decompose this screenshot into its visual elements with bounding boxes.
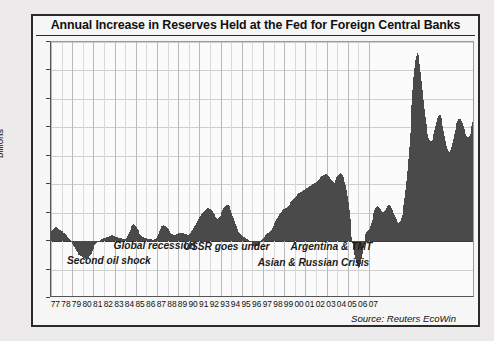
y-tick-mark: [46, 212, 50, 213]
y-tick-mark: [46, 269, 50, 270]
x-tick-label: 98: [273, 299, 282, 309]
x-tick-label: 78: [61, 299, 70, 309]
x-tick-label: 91: [199, 299, 208, 309]
chart-annotation: USSR goes under: [184, 241, 270, 252]
x-tick-label: 82: [104, 299, 113, 309]
chart-page: Annual Increase in Reserves Held at the …: [0, 0, 494, 341]
title-divider: [36, 35, 475, 36]
y-tick-mark: [46, 69, 50, 70]
x-tick-label: 04: [337, 299, 346, 309]
page-title: Annual Increase in Reserves Held at the …: [33, 18, 478, 32]
y-tick-mark: [46, 41, 50, 42]
x-tick-label: 86: [146, 299, 155, 309]
x-tick-label: 99: [284, 299, 293, 309]
y-tick-mark: [46, 155, 50, 156]
x-tick-label: 80: [82, 299, 91, 309]
y-axis-title: billions: [0, 129, 5, 158]
chart-annotation: Second oil shock: [67, 255, 151, 266]
x-tick-label: 06: [358, 299, 367, 309]
x-tick-label: 83: [114, 299, 123, 309]
x-tick-label: 96: [252, 299, 261, 309]
x-tick-label: 00: [294, 299, 303, 309]
x-tick-label: 95: [241, 299, 250, 309]
x-tick-label: 01: [305, 299, 314, 309]
y-tick-mark: [46, 297, 50, 298]
chart-annotation: Argentina & TMT: [291, 241, 373, 252]
x-tick-label: 07: [369, 299, 378, 309]
y-tick-mark: [46, 240, 50, 241]
x-tick-label: 79: [72, 299, 81, 309]
x-tick-label: 89: [178, 299, 187, 309]
x-tick-label: 81: [93, 299, 102, 309]
x-tick-label: 93: [220, 299, 229, 309]
x-tick-label: 92: [210, 299, 219, 309]
x-tick-label: 94: [231, 299, 240, 309]
x-tick-label: 03: [326, 299, 335, 309]
x-tick-label: 85: [135, 299, 144, 309]
x-tick-label: 02: [316, 299, 325, 309]
y-axis: billions 350300250200150100500-50-100: [0, 0, 50, 341]
x-tick-label: 05: [347, 299, 356, 309]
x-tick-label: 77: [51, 299, 60, 309]
x-tick-label: 88: [167, 299, 176, 309]
y-tick-mark: [46, 126, 50, 127]
source-note: Source: Reuters EcoWin: [351, 313, 456, 324]
x-tick-label: 84: [125, 299, 134, 309]
x-tick-label: 87: [157, 299, 166, 309]
bar: [473, 118, 474, 241]
y-tick-mark: [46, 98, 50, 99]
chart-annotation: Asian & Russian Crisis: [258, 257, 370, 268]
y-tick-mark: [46, 183, 50, 184]
x-tick-label: 90: [188, 299, 197, 309]
x-tick-label: 97: [263, 299, 272, 309]
x-axis: 7778798081828384858687888990919293949596…: [50, 299, 474, 313]
